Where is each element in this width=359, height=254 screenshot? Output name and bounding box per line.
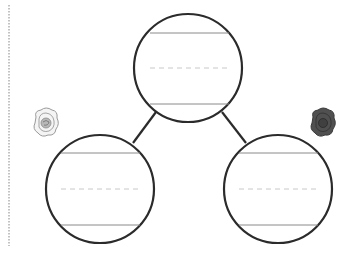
- graphic-organizer: [0, 0, 359, 254]
- node-bottom-right[interactable]: [224, 135, 332, 243]
- node-top[interactable]: [134, 14, 242, 122]
- connector-right: [222, 112, 246, 143]
- node-bottom-left[interactable]: [46, 135, 154, 243]
- rose-filled-icon: [311, 108, 335, 136]
- connector-left: [133, 112, 156, 143]
- rose-outline-icon: [34, 108, 58, 136]
